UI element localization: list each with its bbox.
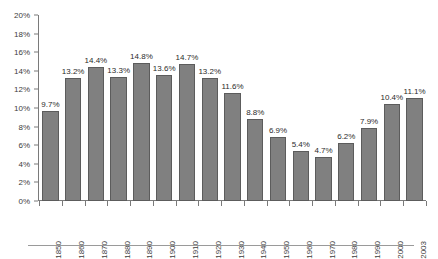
x-axis-tick-mark (358, 201, 359, 206)
bar-slot: 13.3% (107, 15, 130, 201)
bar-value-label: 6.9% (269, 126, 287, 135)
bar[interactable] (133, 63, 149, 201)
bottom-divider-rule (28, 245, 414, 246)
bar[interactable] (88, 67, 104, 201)
bar-value-label: 11.1% (404, 87, 426, 96)
x-axis-category-label: 1940 (259, 241, 268, 259)
x-axis-tick-mark (335, 201, 336, 206)
x-axis-category-label: 1990 (373, 241, 382, 259)
bar-slot: 8.8% (244, 15, 267, 201)
y-axis-tick-label: 4% (18, 159, 30, 168)
x-axis-tick-mark (244, 201, 245, 206)
y-axis-tick-label: 0% (18, 197, 30, 206)
bar-slot: 11.1% (403, 15, 426, 201)
bar-slot: 14.7% (176, 15, 199, 201)
x-axis-category-label: 1870 (100, 241, 109, 259)
plot-area: 9.7%13.2%14.4%13.3%14.8%13.6%14.7%13.2%1… (39, 15, 426, 201)
bar-value-label: 7.9% (360, 117, 378, 126)
x-axis-tick-mark (130, 201, 131, 206)
bar-value-label: 5.4% (292, 140, 310, 149)
bar-slot: 14.8% (130, 15, 153, 201)
bar[interactable] (202, 78, 218, 201)
bar-value-label: 13.3% (107, 66, 130, 75)
y-axis-tick-label: 8% (18, 122, 30, 131)
x-axis-category-label: 1980 (350, 241, 359, 259)
x-axis-category-label: 2003 (419, 241, 428, 259)
bar-slot: 11.6% (221, 15, 244, 201)
y-axis-tick-label: 6% (18, 141, 30, 150)
x-axis-tick-mark (85, 201, 86, 206)
bar-value-label: 13.6% (153, 64, 176, 73)
x-axis-category-label: 1880 (123, 241, 132, 259)
bar[interactable] (110, 77, 126, 201)
x-axis-category-label: 1860 (77, 241, 86, 259)
x-axis-tick-mark (403, 201, 404, 206)
bar[interactable] (247, 119, 263, 201)
bar[interactable] (361, 128, 377, 201)
bar-slot: 4.7% (312, 15, 335, 201)
bar[interactable] (65, 78, 81, 201)
bar[interactable] (406, 98, 422, 201)
x-axis-tick-mark (39, 201, 40, 206)
bar-value-label: 13.2% (198, 67, 221, 76)
bar[interactable] (315, 157, 331, 201)
bar-slot: 13.2% (62, 15, 85, 201)
bar-value-label: 4.7% (314, 146, 332, 155)
bar-slot: 9.7% (39, 15, 62, 201)
x-axis-category-label: 1950 (282, 241, 291, 259)
x-axis-tick-mark (221, 201, 222, 206)
x-axis-tick-mark (380, 201, 381, 206)
y-axis-tick-label: 20% (14, 11, 30, 20)
bar-slot: 7.9% (358, 15, 381, 201)
x-axis-tick-mark (153, 201, 154, 206)
x-axis-tick-mark (107, 201, 108, 206)
x-axis-category-label: 2000 (396, 241, 405, 259)
y-axis-tick-label: 12% (14, 85, 30, 94)
y-axis-tick-label: 16% (14, 48, 30, 57)
bar[interactable] (42, 111, 58, 201)
bar-value-label: 13.2% (62, 67, 85, 76)
x-axis-category-label: 1910 (191, 241, 200, 259)
bar[interactable] (270, 137, 286, 201)
bar-slot: 10.4% (380, 15, 403, 201)
x-axis-category-label: 1890 (145, 241, 154, 259)
x-axis-tick-mark (176, 201, 177, 206)
bar-slot: 6.2% (335, 15, 358, 201)
x-axis-tick-mark (312, 201, 313, 206)
x-axis-category-label: 1970 (328, 241, 337, 259)
bar-value-label: 14.8% (130, 52, 153, 61)
x-axis-tick-mark (426, 201, 427, 206)
bar-value-label: 14.7% (176, 53, 199, 62)
x-axis-tick-mark (198, 201, 199, 206)
bar-value-label: 6.2% (337, 132, 355, 141)
bar-value-label: 10.4% (381, 93, 404, 102)
bar-slot: 13.2% (198, 15, 221, 201)
bar[interactable] (293, 151, 309, 201)
x-axis-category-label-group: 1850186018701880189019001910192019301940… (39, 207, 426, 243)
bar-value-label: 11.6% (221, 82, 243, 91)
bar-slot: 13.6% (153, 15, 176, 201)
y-axis-tick-label: 14% (14, 66, 30, 75)
bar-value-label: 8.8% (246, 108, 264, 117)
x-axis-category-label: 1920 (214, 241, 223, 259)
x-axis-category-label: 1900 (168, 241, 177, 259)
bar[interactable] (338, 143, 354, 201)
y-axis-tick-label: 18% (14, 29, 30, 38)
bar[interactable] (224, 93, 240, 201)
bar-value-label: 14.4% (85, 56, 108, 65)
x-axis-category-label: 1960 (305, 241, 314, 259)
x-axis-tick-mark (62, 201, 63, 206)
y-axis-tick-label: 10% (14, 104, 30, 113)
bar-slot: 5.4% (289, 15, 312, 201)
y-axis-tick-label-group: 0%2%4%6%8%10%12%14%16%18%20% (0, 0, 36, 256)
bar-slot: 6.9% (267, 15, 290, 201)
x-axis-tick-mark (267, 201, 268, 206)
bar[interactable] (156, 75, 172, 201)
bar[interactable] (384, 104, 400, 201)
x-axis-category-label: 1850 (54, 241, 63, 259)
y-axis-tick-label: 2% (18, 178, 30, 187)
x-axis-category-label: 1930 (237, 241, 246, 259)
bar-slot: 14.4% (85, 15, 108, 201)
bar[interactable] (179, 64, 195, 201)
